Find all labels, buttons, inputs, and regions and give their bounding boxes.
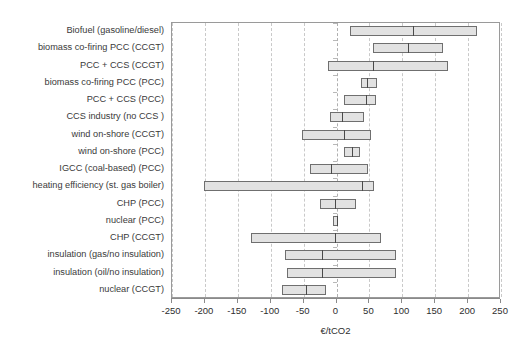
x-axis-tick bbox=[401, 299, 402, 303]
median-marker bbox=[322, 268, 323, 278]
x-axis-tick bbox=[171, 299, 172, 303]
median-marker bbox=[335, 199, 336, 209]
median-marker bbox=[367, 78, 368, 88]
x-axis-tick bbox=[270, 299, 271, 303]
x-axis-tick-label: -150 bbox=[227, 305, 246, 316]
range-box bbox=[310, 164, 368, 174]
category-label: nuclear (CCGT) bbox=[99, 281, 164, 298]
median-marker bbox=[306, 285, 307, 295]
category-label: Biofuel (gasoline/diesel) bbox=[66, 22, 164, 39]
bar-chart: Biofuel (gasoline/diesel)biomass co-firi… bbox=[0, 0, 513, 348]
chart-row bbox=[172, 127, 499, 144]
chart-row bbox=[172, 282, 499, 299]
median-marker bbox=[337, 216, 338, 226]
x-axis-tick-label: 150 bbox=[426, 305, 442, 316]
category-label: IGCC (coal-based) (PCC) bbox=[59, 160, 164, 177]
median-marker bbox=[413, 26, 414, 36]
category-label: insulation (gas/no insulation) bbox=[48, 246, 164, 263]
chart-row bbox=[172, 40, 499, 57]
category-label: insulation (oil/no insulation) bbox=[53, 264, 164, 281]
median-marker bbox=[331, 164, 332, 174]
median-marker bbox=[344, 130, 345, 140]
chart-row bbox=[172, 58, 499, 75]
category-label: CHP (CCGT) bbox=[110, 229, 164, 246]
chart-row bbox=[172, 75, 499, 92]
chart-row bbox=[172, 144, 499, 161]
category-label: nuclear (PCC) bbox=[106, 212, 164, 229]
range-box bbox=[251, 233, 381, 243]
x-axis-tick-label: 50 bbox=[363, 305, 374, 316]
category-label: CCS industry (no CCS ) bbox=[66, 108, 164, 125]
x-axis-tick bbox=[336, 299, 337, 303]
chart-row bbox=[172, 161, 499, 178]
category-label: CHP (PCC) bbox=[117, 195, 164, 212]
category-label: biomass co-firing PCC (PCC) bbox=[45, 74, 164, 91]
median-marker bbox=[352, 147, 353, 157]
x-axis-tick bbox=[237, 299, 238, 303]
x-axis-tick-label: 250 bbox=[492, 305, 508, 316]
range-box bbox=[361, 78, 377, 88]
range-box bbox=[330, 112, 364, 122]
clipped-title-text bbox=[0, 0, 513, 3]
median-marker bbox=[342, 112, 343, 122]
median-marker bbox=[408, 43, 409, 53]
range-box bbox=[282, 285, 326, 295]
chart-row bbox=[172, 196, 499, 213]
range-box bbox=[287, 268, 396, 278]
x-axis-tick bbox=[204, 299, 205, 303]
x-axis-tick-label: -250 bbox=[161, 305, 180, 316]
range-box bbox=[328, 61, 448, 71]
category-label: heating efficiency (st. gas boiler) bbox=[32, 177, 164, 194]
x-axis-tick-label: -50 bbox=[296, 305, 310, 316]
median-marker bbox=[373, 61, 374, 71]
x-axis-tick-label: 200 bbox=[459, 305, 475, 316]
chart-row bbox=[172, 109, 499, 126]
x-axis-tick bbox=[500, 299, 501, 303]
category-label: PCC + CCS (CCGT) bbox=[80, 57, 164, 74]
median-marker bbox=[362, 181, 363, 191]
category-label: PCC + CCS (PCC) bbox=[87, 91, 164, 108]
plot-area bbox=[171, 22, 500, 298]
range-box bbox=[285, 250, 396, 260]
chart-row bbox=[172, 23, 499, 40]
range-box bbox=[302, 130, 371, 140]
category-axis-labels: Biofuel (gasoline/diesel)biomass co-firi… bbox=[0, 22, 168, 298]
category-label: biomass co-firing PCC (CCGT) bbox=[38, 39, 164, 56]
chart-row bbox=[172, 230, 499, 247]
chart-row bbox=[172, 247, 499, 264]
x-axis-tick bbox=[467, 299, 468, 303]
chart-row bbox=[172, 178, 499, 195]
median-marker bbox=[366, 95, 367, 105]
x-axis-tick bbox=[434, 299, 435, 303]
x-axis-tick-label: -200 bbox=[194, 305, 213, 316]
median-marker bbox=[322, 250, 323, 260]
chart-row bbox=[172, 213, 499, 230]
x-axis-tick bbox=[303, 299, 304, 303]
x-axis: -250-200-150-100-50050100150200250 bbox=[171, 298, 500, 299]
x-axis-tick-label: -100 bbox=[260, 305, 279, 316]
median-marker bbox=[335, 233, 336, 243]
range-box bbox=[204, 181, 374, 191]
x-axis-tick bbox=[368, 299, 369, 303]
range-box bbox=[320, 199, 356, 209]
chart-row bbox=[172, 92, 499, 109]
x-axis-tick-label: 0 bbox=[333, 305, 338, 316]
category-label: wind on-shore (PCC) bbox=[78, 143, 164, 160]
x-axis-title: €/tCO2 bbox=[171, 325, 500, 336]
range-box bbox=[344, 95, 376, 105]
category-label: wind on-shore (CCGT) bbox=[72, 126, 164, 143]
chart-row bbox=[172, 265, 499, 282]
gridline bbox=[501, 23, 502, 297]
x-axis-tick-label: 100 bbox=[393, 305, 409, 316]
